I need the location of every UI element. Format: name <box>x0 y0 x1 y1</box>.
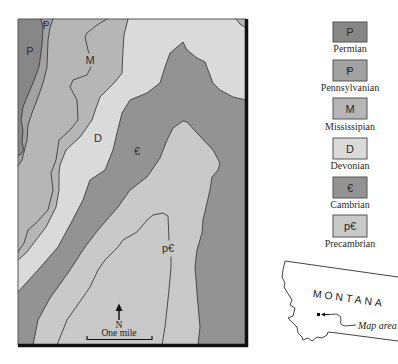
label-precambrian: p€ <box>162 242 174 254</box>
legend-item-pennsylvanian: Ᵽ Pennsylvanian <box>321 60 379 93</box>
legend: P Permian Ᵽ Pennsylvanian M Mississipian… <box>321 22 379 249</box>
legend-symbol-pennsylvanian: Ᵽ <box>346 65 353 77</box>
scale-bar-label: One mile <box>101 328 136 338</box>
legend-name-precambrian: Precambrian <box>325 238 376 249</box>
label-devonian: D <box>94 132 102 144</box>
label-mississippian: M <box>85 54 94 66</box>
geologic-map-figure: P Ᵽ M D € p€ N One mile P P <box>0 0 398 364</box>
legend-item-precambrian: p€ Precambrian <box>325 215 376 249</box>
montana-inset: MONTANA Map area <box>282 261 398 341</box>
label-pennsylvanian: Ᵽ <box>43 20 50 31</box>
legend-item-devonian: D Devonian <box>331 138 370 171</box>
label-permian: P <box>26 45 33 57</box>
legend-name-cambrian: Cambrian <box>330 199 369 210</box>
callout-leader-line <box>329 314 356 326</box>
label-cambrian: € <box>134 145 140 157</box>
legend-symbol-cambrian: € <box>347 182 353 194</box>
legend-item-permian: P Permian <box>333 22 367 54</box>
legend-symbol-devonian: D <box>346 143 354 155</box>
legend-item-mississippian: M Mississipian <box>325 98 375 132</box>
location-marker-icon <box>317 313 329 317</box>
legend-item-cambrian: € Cambrian <box>330 177 369 210</box>
legend-name-permian: Permian <box>333 43 366 54</box>
state-name-label: MONTANA <box>312 287 386 309</box>
map-area-callout: Map area <box>357 320 397 331</box>
legend-name-mississippian: Mississipian <box>325 121 375 132</box>
legend-symbol-mississippian: M <box>345 103 354 115</box>
legend-symbol-precambrian: p€ <box>344 220 356 232</box>
legend-symbol-permian: P <box>346 26 353 38</box>
legend-name-devonian: Devonian <box>331 160 370 171</box>
geologic-map: P Ᵽ M D € p€ N One mile <box>18 19 248 347</box>
legend-name-pennsylvanian: Pennsylvanian <box>321 82 379 93</box>
